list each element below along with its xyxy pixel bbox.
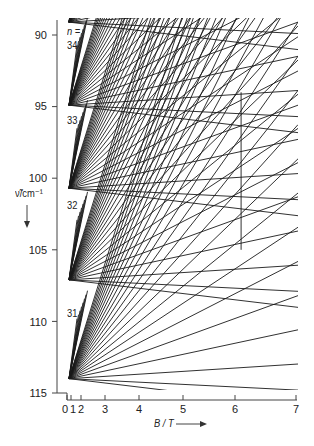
fan-line (69, 0, 298, 22)
fan-label-31: 31 (67, 308, 77, 319)
fan-line (69, 0, 298, 22)
fan-line (69, 0, 298, 22)
y-tick-115: 115 (17, 388, 47, 399)
fan-line (69, 0, 298, 22)
fan-line (69, 90, 298, 378)
fan-line (69, 0, 298, 22)
fan-line (69, 379, 298, 390)
fan-label-32: 32 (67, 200, 77, 211)
y-axis-label: ν̃/cm⁻¹ (15, 188, 43, 199)
fan-line (69, 0, 298, 22)
fan-line (69, 0, 298, 22)
x-tick-5: 5 (173, 404, 193, 415)
fan-lines (69, 0, 298, 406)
fan-line (69, 0, 298, 22)
y-tick-100: 100 (17, 173, 47, 184)
fan-line (69, 0, 298, 22)
x-tick-7: 7 (286, 404, 306, 415)
y-tick-110: 110 (17, 317, 47, 328)
fan-line (69, 0, 298, 22)
fan-line (69, 0, 298, 22)
fan-line (69, 0, 298, 22)
fan-label-34: 34 (67, 40, 77, 51)
fan-line (69, 0, 298, 22)
fan-label-33: 33 (67, 115, 77, 126)
fan-line (69, 0, 298, 22)
fan-line (69, 0, 298, 22)
y-tick-95: 95 (17, 101, 47, 112)
axes (24, 20, 297, 427)
y-tick-90: 90 (17, 30, 47, 41)
fan-line (69, 0, 298, 22)
x-axis-label: B / T (154, 418, 174, 429)
fan-line (69, 128, 298, 279)
chart-plot (0, 0, 314, 446)
n-equals-label: n = (67, 26, 80, 37)
fan-line (69, 0, 298, 22)
fan-line (69, 0, 298, 22)
fan-line (69, 0, 298, 22)
fan-line (69, 0, 298, 22)
x-tick-3: 3 (95, 404, 115, 415)
x-tick-2: 2 (71, 404, 91, 415)
y-tick-105: 105 (17, 245, 47, 256)
x-tick-4: 4 (129, 404, 149, 415)
fan-line (69, 0, 298, 22)
x-tick-6: 6 (225, 404, 245, 415)
